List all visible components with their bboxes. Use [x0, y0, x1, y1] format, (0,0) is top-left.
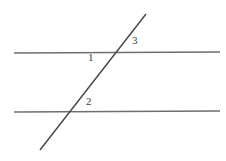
lower-parallel-line [14, 111, 220, 112]
angle-label-1: 1 [88, 52, 94, 63]
angle-label-2: 2 [86, 96, 92, 107]
figure-canvas [0, 0, 226, 161]
geometry-figure: 1 3 2 [0, 0, 226, 161]
transversal-line [40, 14, 146, 150]
angle-label-3: 3 [132, 35, 138, 46]
